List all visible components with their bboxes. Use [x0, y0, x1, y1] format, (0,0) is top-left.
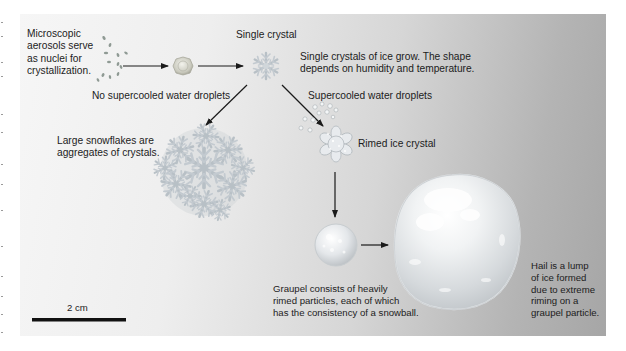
snowflake-crystal-icon: [253, 53, 280, 79]
snowflakes-label: Large snowflakes are aggregates of cryst…: [57, 135, 160, 160]
hail-label: Hail is a lump of ice formed due to extr…: [531, 260, 599, 319]
graupel-label: Graupel consists of heavily rimed partic…: [273, 283, 419, 318]
snowflake-aggregate-icon: [152, 118, 259, 222]
aerosols-label: Microscopic aerosols serve as nuclei for…: [27, 28, 93, 77]
no-supercooled-label: No supercooled water droplets: [92, 90, 230, 102]
aerosol-particles-icon: [96, 35, 128, 82]
rimed-crystal-label: Rimed ice crystal: [358, 138, 436, 150]
rimed-crystal-icon: [318, 126, 354, 162]
graupel-pellet-icon: [315, 224, 357, 266]
scale-bar-label: 2 cm: [67, 302, 88, 314]
water-droplets-icon: [299, 102, 338, 132]
single-crystal-description: Single crystals of ice grow. The shape d…: [300, 51, 474, 76]
scale-bar-line: [32, 318, 126, 322]
ice-nucleus-icon: [173, 57, 193, 75]
single-crystal-label: Single crystal: [236, 29, 297, 41]
supercooled-label: Supercooled water droplets: [308, 90, 432, 102]
